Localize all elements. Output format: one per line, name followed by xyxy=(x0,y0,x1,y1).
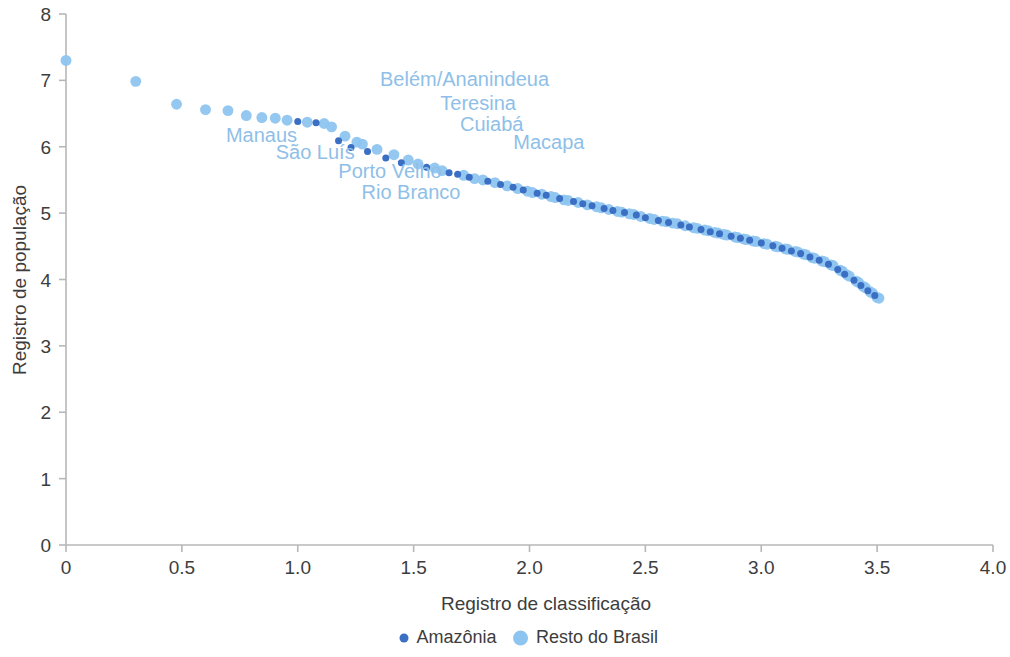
y-tick-label: 7 xyxy=(40,70,51,91)
city-annotation-label: Teresina xyxy=(440,92,516,114)
city-annotation-label: Rio Branco xyxy=(362,181,461,203)
data-point xyxy=(589,202,596,209)
legend-label: Amazônia xyxy=(417,627,498,647)
data-point xyxy=(655,217,662,224)
y-tick-label: 0 xyxy=(40,535,51,556)
y-tick-label: 1 xyxy=(40,469,51,490)
data-point xyxy=(556,195,563,202)
legend-marker xyxy=(400,634,409,643)
data-point xyxy=(200,104,211,115)
legend-label: Resto do Brasil xyxy=(536,627,658,647)
y-tick-label: 4 xyxy=(40,270,51,291)
y-tick-label: 8 xyxy=(40,4,51,25)
data-point xyxy=(372,144,383,155)
x-tick-label: 1.5 xyxy=(400,557,426,578)
data-point xyxy=(446,169,453,176)
data-point xyxy=(579,200,586,207)
data-point xyxy=(850,277,857,284)
data-point xyxy=(601,205,608,212)
x-tick-label: 2.0 xyxy=(516,557,542,578)
data-point xyxy=(520,186,527,193)
data-point xyxy=(256,112,267,123)
data-point xyxy=(388,149,399,160)
data-point xyxy=(534,190,541,197)
data-point xyxy=(466,174,473,181)
data-point xyxy=(364,148,371,155)
data-point xyxy=(686,224,693,231)
data-point xyxy=(779,245,786,252)
data-point xyxy=(816,257,823,264)
data-point xyxy=(510,184,517,191)
data-point xyxy=(806,253,813,260)
data-point xyxy=(758,239,765,246)
x-tick-label: 3.5 xyxy=(864,557,890,578)
y-tick-label: 5 xyxy=(40,203,51,224)
data-point xyxy=(788,247,795,254)
data-point xyxy=(737,235,744,242)
x-tick-label: 2.5 xyxy=(632,557,658,578)
data-point xyxy=(497,181,504,188)
data-point xyxy=(642,214,649,221)
data-point xyxy=(797,250,804,257)
data-point xyxy=(841,271,848,278)
data-point xyxy=(302,117,313,128)
city-annotation-label: Belém/Ananindeua xyxy=(380,68,550,90)
data-point xyxy=(825,261,832,268)
x-tick-label: 4.0 xyxy=(980,557,1006,578)
data-point xyxy=(171,99,182,110)
data-point xyxy=(570,198,577,205)
data-point xyxy=(130,76,141,87)
data-point xyxy=(834,266,841,273)
x-tick-label: 1.0 xyxy=(285,557,311,578)
data-point xyxy=(357,139,368,150)
data-point xyxy=(61,55,72,66)
data-point xyxy=(454,171,461,178)
y-tick-label: 3 xyxy=(40,336,51,357)
y-tick-label: 2 xyxy=(40,402,51,423)
data-point xyxy=(677,222,684,229)
data-point xyxy=(665,219,672,226)
data-point xyxy=(871,292,878,299)
y-tick-label: 6 xyxy=(40,137,51,158)
data-point xyxy=(543,192,550,199)
city-annotation-label: Porto Velho xyxy=(338,160,441,182)
x-tick-label: 0.5 xyxy=(169,557,195,578)
data-point xyxy=(313,119,320,126)
data-point xyxy=(609,207,616,214)
data-point xyxy=(326,121,337,132)
data-point xyxy=(698,226,705,233)
data-point xyxy=(621,209,628,216)
y-axis-title: Registro de população xyxy=(9,185,30,375)
legend-marker xyxy=(513,631,528,646)
city-annotation-label: Macapa xyxy=(513,131,585,153)
data-point xyxy=(728,233,735,240)
data-point xyxy=(746,237,753,244)
x-tick-label: 0 xyxy=(61,557,72,578)
scatter-plot-figure: 012345678 00.51.01.52.02.53.03.54.0 Belé… xyxy=(0,0,1010,657)
x-axis-title: Registro de classificação xyxy=(441,593,651,614)
data-point xyxy=(769,242,776,249)
data-point xyxy=(633,212,640,219)
data-point xyxy=(864,287,871,294)
data-point xyxy=(223,105,234,116)
data-point xyxy=(857,282,864,289)
data-point xyxy=(270,113,281,124)
data-point xyxy=(707,228,714,235)
data-point xyxy=(716,230,723,237)
data-point xyxy=(241,110,252,121)
data-point xyxy=(484,178,491,185)
x-tick-label: 3.0 xyxy=(748,557,774,578)
